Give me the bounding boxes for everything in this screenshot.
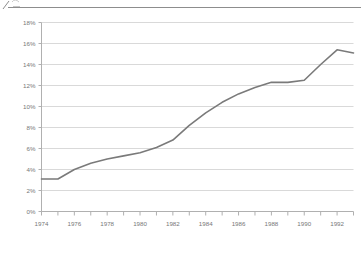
x-axis-tick-label: 1986 — [232, 220, 246, 227]
x-axis-tick-label: 1976 — [67, 220, 81, 227]
y-axis-tick-label: 16% — [23, 40, 36, 47]
y-axis-tick-label: 8% — [27, 124, 36, 131]
x-axis-tick-label: 1978 — [100, 220, 114, 227]
x-axis-tick-label: 1988 — [265, 220, 279, 227]
plot-background — [42, 23, 354, 212]
y-axis-tick-label: 4% — [27, 166, 36, 173]
y-axis-tick-label: 2% — [27, 187, 36, 194]
x-axis-tick-label: 1974 — [35, 220, 49, 227]
y-axis-tick-label: 6% — [27, 145, 36, 152]
x-axis-tick-label: 1990 — [297, 220, 311, 227]
x-axis-tick-label: 1992 — [330, 220, 344, 227]
x-axis-tick-label: 1980 — [133, 220, 147, 227]
x-axis-tick-label: 1982 — [166, 220, 180, 227]
line-chart-plot: 0%2%4%6%8%10%12%14%16%18%197419761978198… — [0, 0, 361, 257]
y-axis-tick-label: 18% — [23, 19, 36, 26]
x-axis-tick-label: 1984 — [199, 220, 213, 227]
y-axis-tick-label: 0% — [27, 208, 36, 215]
y-axis-tick-label: 14% — [23, 61, 36, 68]
y-axis-tick-label: 10% — [23, 103, 36, 110]
y-axis-tick-label: 12% — [23, 82, 36, 89]
chart-figure: 0%2%4%6%8%10%12%14%16%18%197419761978198… — [0, 0, 361, 257]
